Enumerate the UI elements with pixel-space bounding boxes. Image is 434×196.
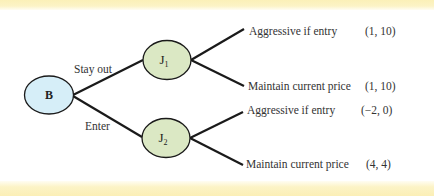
root-node-label: B <box>45 88 53 102</box>
edge-J2-leaf-2 <box>190 138 243 165</box>
branch-label-enter: Enter <box>85 120 110 132</box>
leaf-action-4: Maintain current price <box>246 158 349 171</box>
branch-label-stay-out: Stay out <box>74 63 113 76</box>
leaf-payoff-3: (−2, 0) <box>361 104 393 117</box>
game-tree-diagram: B J1 J2 Stay out Enter Aggressive if ent… <box>0 0 434 196</box>
decision-node-J2: J2 <box>142 119 190 158</box>
leaf-action-2: Maintain current price <box>248 80 351 93</box>
leaf-payoff-4: (4, 4) <box>366 158 391 171</box>
edge-J1-leaf-1 <box>191 29 244 60</box>
root-node-B: B <box>25 76 74 114</box>
leaf-action-1: Aggressive if entry <box>249 25 337 38</box>
leaf-payoff-1: (1, 10) <box>365 25 396 38</box>
leaf-payoff-2: (1, 10) <box>365 80 396 93</box>
edge-J1-leaf-2 <box>191 60 244 86</box>
node-J1-subscript: 1 <box>165 60 169 69</box>
node-J2-subscript: 2 <box>164 138 168 147</box>
decision-node-J1: J1 <box>143 41 191 80</box>
edge-J2-leaf-1 <box>190 112 243 138</box>
leaf-action-3: Aggressive if entry <box>247 104 335 117</box>
